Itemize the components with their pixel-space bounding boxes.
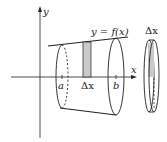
- diagram-canvas: y x a b Δx y = f(x) Δx: [0, 0, 167, 142]
- solid-of-revolution-figure: y x a b Δx y = f(x) Δx: [0, 0, 167, 142]
- disk-delta-x-label: Δx: [145, 25, 158, 36]
- delta-x-strip: [83, 42, 91, 77]
- y-axis-label: y: [42, 6, 49, 17]
- curve-label: y = f(x): [90, 26, 129, 37]
- x-axis: [11, 75, 137, 79]
- y-axis: [38, 6, 42, 138]
- label-b: b: [113, 80, 119, 91]
- x-axis-label: x: [131, 64, 137, 75]
- disk-slice: [144, 40, 159, 112]
- label-delta-x: Δx: [81, 80, 94, 91]
- label-a: a: [58, 80, 64, 91]
